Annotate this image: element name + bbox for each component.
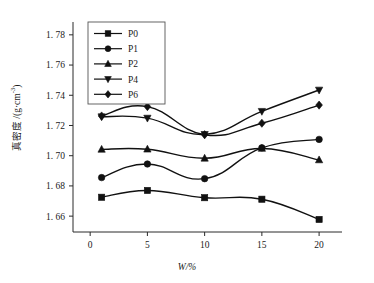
y-tick-label: 1. 68 bbox=[46, 181, 65, 191]
series-line bbox=[102, 105, 319, 135]
series-line bbox=[102, 139, 319, 179]
series-line bbox=[102, 148, 319, 160]
data-point-marker bbox=[201, 175, 208, 182]
legend-label: P2 bbox=[128, 59, 138, 69]
data-series bbox=[98, 87, 323, 222]
y-tick-label: 1. 70 bbox=[46, 151, 65, 161]
data-point-marker bbox=[144, 161, 151, 168]
series-line bbox=[102, 190, 319, 219]
legend-label: P1 bbox=[128, 44, 138, 54]
data-point-marker bbox=[316, 216, 322, 222]
y-tick-label: 1. 74 bbox=[46, 91, 65, 101]
x-tick-label: 15 bbox=[257, 240, 267, 250]
series-p2 bbox=[98, 144, 323, 162]
chart-canvas: 1. 661. 681. 701. 721. 741. 761. 7805101… bbox=[0, 0, 374, 283]
legend-label: P0 bbox=[128, 29, 138, 39]
legend-label: P4 bbox=[128, 75, 138, 85]
x-tick-label: 20 bbox=[314, 240, 324, 250]
x-tick-label: 10 bbox=[200, 240, 210, 250]
x-axis-title-text: W/% bbox=[178, 262, 196, 272]
y-tick-label: 1. 78 bbox=[46, 30, 65, 40]
data-point-marker bbox=[316, 136, 323, 143]
data-point-marker bbox=[105, 31, 111, 37]
series-p0 bbox=[99, 187, 323, 222]
x-tick-label: 0 bbox=[88, 240, 93, 250]
data-point-marker bbox=[98, 112, 105, 120]
series-p1 bbox=[98, 136, 322, 182]
data-point-marker bbox=[144, 187, 150, 193]
series-p6 bbox=[98, 101, 322, 139]
data-point-marker bbox=[105, 46, 111, 52]
y-tick-label: 1. 72 bbox=[46, 121, 65, 131]
x-axis-title: W/% bbox=[0, 256, 374, 274]
x-tick-label: 5 bbox=[145, 240, 150, 250]
legend-label: P6 bbox=[128, 90, 138, 100]
data-point-marker bbox=[98, 174, 105, 181]
legend-box bbox=[88, 22, 165, 104]
data-point-marker bbox=[316, 101, 323, 109]
data-point-marker bbox=[202, 195, 208, 201]
chart-legend: P0P1P2P4P6 bbox=[88, 22, 165, 104]
data-point-marker bbox=[99, 194, 105, 200]
chart-figure: 1. 661. 681. 701. 721. 741. 761. 7805101… bbox=[0, 0, 374, 283]
data-point-marker bbox=[259, 196, 265, 202]
data-point-marker bbox=[259, 119, 266, 127]
y-tick-label: 1. 76 bbox=[46, 60, 65, 70]
y-tick-label: 1. 66 bbox=[46, 212, 65, 222]
